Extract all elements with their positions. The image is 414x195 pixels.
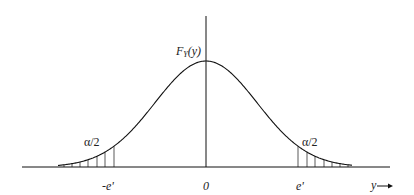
tick-label-zero: 0	[203, 179, 209, 193]
tick-label-e: e'	[296, 179, 304, 193]
tail-label-right: α/2	[302, 135, 318, 149]
y-axis-label: FY(y)	[175, 44, 201, 59]
x-axis-label: y	[370, 178, 377, 192]
density-curve	[58, 61, 352, 165]
tail-label-left: α/2	[84, 135, 100, 149]
tick-label-neg-e: -e'	[102, 179, 114, 193]
distribution-diagram: FY(y) α/2 α/2 -e' 0 e' y	[0, 0, 414, 195]
x-axis-arrow-icon	[377, 184, 393, 189]
